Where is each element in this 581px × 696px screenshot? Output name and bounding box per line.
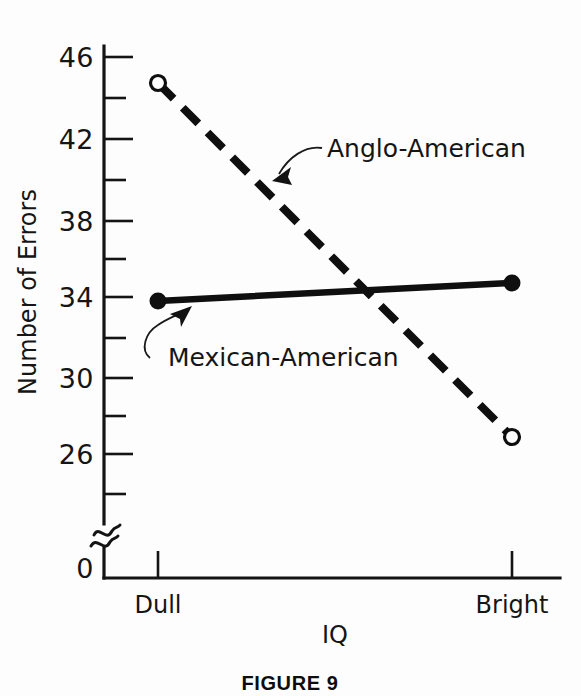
x-tick-label-bright: Bright: [476, 591, 549, 619]
annotation-anglo-american-label: Anglo-American: [327, 134, 526, 163]
series-anglo-american: [151, 76, 520, 445]
annotation-anglo-american: Anglo-American: [272, 134, 526, 185]
x-axis-title: IQ: [322, 621, 348, 649]
figure-container: 46 42 38 34 30 26 0 Dull Bright IQ Numbe…: [0, 0, 581, 696]
y-tick-label-34: 34: [59, 282, 94, 313]
figure-caption: FIGURE 9: [241, 672, 338, 694]
annotation-mexican-american-label: Mexican-American: [168, 343, 399, 372]
y-tick-marks: [104, 57, 133, 494]
x-tick-marks: [158, 551, 512, 578]
chart-canvas: 46 42 38 34 30 26 0 Dull Bright IQ Numbe…: [0, 0, 581, 696]
series-mexican-american: [151, 276, 520, 309]
x-tick-labels: Dull Bright: [134, 591, 548, 619]
series-mexican-american-line: [158, 283, 512, 301]
y-tick-label-30: 30: [59, 363, 94, 394]
annotation-mexican-american: Mexican-American: [145, 306, 399, 372]
y-tick-label-46: 46: [59, 42, 94, 73]
y-tick-label-42: 42: [59, 124, 94, 155]
x-tick-label-dull: Dull: [134, 591, 181, 619]
y-tick-labels: 46 42 38 34 30 26 0: [59, 42, 94, 584]
axes-group: [104, 46, 560, 578]
series-anglo-american-point-bright: [505, 430, 520, 445]
series-mexican-american-point-bright: [505, 276, 520, 291]
y-tick-label-26: 26: [59, 439, 94, 470]
series-anglo-american-point-dull: [151, 76, 166, 91]
series-mexican-american-point-dull: [151, 294, 166, 309]
y-axis-title: Number of Errors: [14, 189, 42, 395]
axis-break-icon: [91, 525, 120, 546]
y-tick-label-0: 0: [76, 553, 94, 584]
y-tick-label-38: 38: [59, 206, 94, 237]
annotation-anglo-american-leader: [279, 148, 322, 174]
